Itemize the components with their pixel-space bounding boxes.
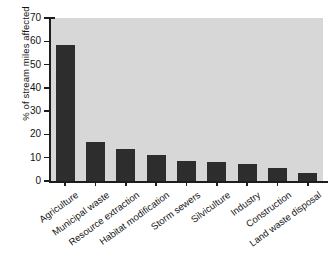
x-axis-tick (155, 182, 156, 186)
y-axis-tick-label: 70 (1, 13, 41, 23)
x-axis-tick (95, 182, 96, 186)
y-axis-tick-label: 20 (1, 129, 41, 139)
bar[interactable] (86, 142, 105, 181)
bar[interactable] (298, 173, 317, 181)
bar[interactable] (207, 162, 226, 181)
bars-layer (50, 18, 323, 181)
bar[interactable] (268, 168, 287, 182)
x-axis-tick (246, 182, 247, 186)
y-axis-tick-label: 30 (1, 106, 41, 116)
y-axis-tick-label: 0 (1, 176, 41, 186)
y-axis-tick-label: 60 (1, 36, 41, 46)
bar[interactable] (56, 45, 75, 181)
x-axis-tick (125, 182, 126, 186)
x-axis-tick (277, 182, 278, 186)
x-axis-tick (64, 182, 65, 186)
x-axis-tick (186, 182, 187, 186)
x-axis-line (49, 181, 328, 183)
bar[interactable] (238, 164, 257, 181)
bar[interactable] (147, 155, 166, 181)
y-axis-tick-label: 40 (1, 83, 41, 93)
x-axis-tick (307, 182, 308, 186)
x-axis-tick (216, 182, 217, 186)
bar-chart-figure: % of stream miles affected 7060504030201… (0, 0, 333, 263)
bar[interactable] (116, 149, 135, 181)
bar[interactable] (177, 161, 196, 181)
y-axis-tick-label: 10 (1, 153, 41, 163)
y-axis-tick-label: 50 (1, 60, 41, 70)
